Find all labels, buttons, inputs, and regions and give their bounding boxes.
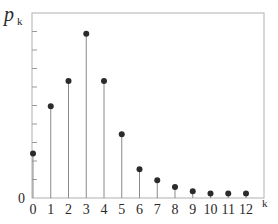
data-point bbox=[66, 78, 72, 84]
data-point bbox=[154, 177, 160, 183]
y-zero-label: 0 bbox=[18, 191, 25, 206]
x-tick-label: 6 bbox=[136, 202, 143, 217]
x-tick-label: 12 bbox=[239, 202, 253, 217]
data-point bbox=[208, 191, 214, 197]
data-point bbox=[137, 166, 143, 172]
x-tick-label: 9 bbox=[189, 202, 196, 217]
data-point bbox=[243, 191, 249, 197]
y-axis-label-subscript: k bbox=[17, 15, 23, 27]
data-point bbox=[190, 188, 196, 194]
x-tick-label: 4 bbox=[101, 202, 108, 217]
data-point bbox=[48, 103, 54, 109]
y-axis-label: p bbox=[2, 3, 14, 26]
data-stems bbox=[30, 31, 249, 198]
x-axis-label: k bbox=[262, 197, 268, 209]
data-point bbox=[225, 191, 231, 197]
x-tick-label: 7 bbox=[154, 202, 161, 217]
data-point bbox=[83, 31, 89, 37]
data-point bbox=[30, 151, 36, 157]
data-point bbox=[119, 131, 125, 137]
plot-frame bbox=[32, 13, 264, 198]
x-tick-label: 10 bbox=[204, 202, 218, 217]
x-tick-label: 2 bbox=[65, 202, 72, 217]
x-tick-labels: 0123456789101112 bbox=[30, 202, 254, 217]
data-point bbox=[172, 184, 178, 190]
x-tick-label: 5 bbox=[118, 202, 125, 217]
data-point bbox=[101, 78, 107, 84]
probability-stem-chart: 0123456789101112 p k 0 k bbox=[0, 0, 278, 224]
x-tick-label: 0 bbox=[30, 202, 37, 217]
x-tick-label: 11 bbox=[222, 202, 235, 217]
x-tick-label: 8 bbox=[172, 202, 179, 217]
x-tick-label: 1 bbox=[47, 202, 54, 217]
x-tick-label: 3 bbox=[83, 202, 90, 217]
